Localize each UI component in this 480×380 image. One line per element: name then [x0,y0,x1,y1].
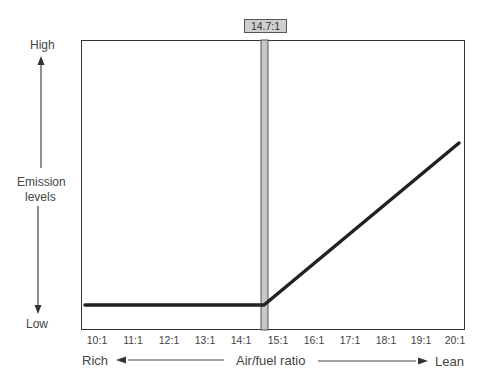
x-tick: 18:1 [376,334,396,346]
x-tick: 20:1 [445,334,465,346]
x-tick: 14:1 [231,334,251,346]
y-axis-title-line2: levels [25,190,56,204]
x-label-rich: Rich [82,353,108,368]
x-tick: 10:1 [87,334,107,346]
x-tick: 15:1 [268,334,288,346]
chart-graphics [0,0,480,380]
y-axis-title-line1: Emission [17,175,66,189]
arrow-down-icon [35,305,42,314]
x-tick: 17:1 [340,334,360,346]
x-tick: 13:1 [195,334,215,346]
x-label-lean: Lean [435,354,464,369]
arrow-right-icon [418,358,428,365]
stoichiometric-band [261,40,268,330]
arrow-left-icon [116,357,126,364]
emission-line [85,143,459,305]
x-tick: 16:1 [304,334,324,346]
x-tick: 12:1 [159,334,179,346]
x-tick: 11:1 [123,334,143,346]
arrow-up-icon [38,56,45,65]
y-label-low: Low [26,317,48,331]
x-tick: 19:1 [411,334,431,346]
stoichiometric-label: 14.7:1 [244,19,287,33]
y-label-high: High [30,38,55,52]
x-axis-title: Air/fuel ratio [236,353,305,368]
